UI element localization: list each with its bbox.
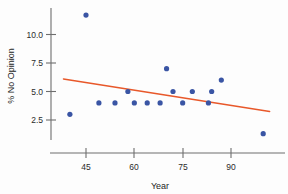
- data-point: [158, 100, 163, 105]
- data-point: [67, 112, 72, 117]
- y-tick-label-7-5: 7.5: [31, 58, 43, 68]
- data-point: [125, 89, 130, 94]
- plot-canvas: 10.0 7.5 5.0 2.5 % No Opinion 45 60 75 9…: [0, 0, 288, 194]
- data-point: [206, 100, 211, 105]
- x-axis-title: Year: [151, 181, 169, 191]
- x-tick-label-60: 60: [129, 162, 139, 172]
- data-point: [209, 89, 214, 94]
- x-axis-tick-labels: 45 60 75 90: [81, 162, 236, 172]
- y-axis-tick-labels: 10.0 7.5 5.0 2.5: [26, 30, 43, 126]
- data-point: [112, 100, 117, 105]
- x-tick-label-90: 90: [226, 162, 236, 172]
- data-point: [96, 100, 101, 105]
- y-axis-title: % No Opinion: [6, 48, 16, 104]
- data-point: [164, 66, 169, 71]
- data-point: [145, 100, 150, 105]
- data-point: [132, 100, 137, 105]
- data-points-layer: [67, 13, 266, 137]
- y-tick-label-5-0: 5.0: [31, 87, 43, 97]
- regression-trend-line: [63, 79, 269, 111]
- x-tick-label-45: 45: [81, 162, 91, 172]
- data-point: [190, 89, 195, 94]
- data-point: [180, 100, 185, 105]
- x-tick-label-75: 75: [178, 162, 188, 172]
- y-tick-label-2-5: 2.5: [31, 115, 43, 125]
- data-point: [170, 89, 175, 94]
- scatter-plot-figure: 10.0 7.5 5.0 2.5 % No Opinion 45 60 75 9…: [0, 0, 288, 194]
- y-tick-label-10: 10.0: [26, 30, 43, 40]
- data-point: [219, 78, 224, 83]
- data-point: [261, 131, 266, 136]
- data-point: [83, 13, 88, 18]
